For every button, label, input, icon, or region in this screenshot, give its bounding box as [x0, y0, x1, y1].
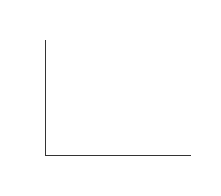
y-axis-line	[45, 40, 46, 156]
x-axis-line	[45, 155, 191, 156]
